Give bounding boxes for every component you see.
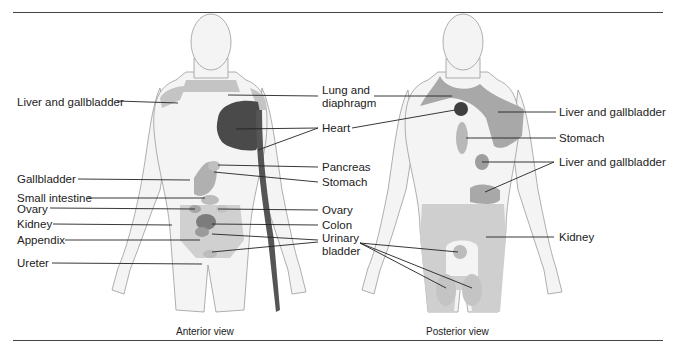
posterior-heart-region [454, 102, 468, 116]
label-kidney-anterior: Kidney [17, 218, 52, 231]
anterior-head [191, 14, 231, 70]
label-liver-gallbladder-posterior-1: Liver and gallbladder [559, 106, 666, 119]
caption-anterior-view: Anterior view [176, 326, 234, 338]
label-lung-diaphragm-2: diaphragm [322, 97, 376, 110]
label-stomach-posterior: Stomach [559, 132, 604, 145]
label-liver-gallbladder-anterior: Liver and gallbladder [17, 96, 124, 109]
label-urinary-bladder-1: Urinary [322, 232, 359, 245]
label-kidney-posterior: Kidney [559, 231, 594, 244]
label-ureter: Ureter [17, 257, 49, 270]
posterior-head [443, 14, 483, 70]
label-ovary-center: Ovary [322, 204, 353, 217]
label-appendix: Appendix [17, 234, 65, 247]
heart-region [217, 101, 261, 151]
label-colon: Colon [322, 219, 352, 232]
label-heart: Heart [322, 122, 350, 135]
label-pancreas: Pancreas [322, 161, 371, 174]
label-liver-gallbladder-posterior-2: Liver and gallbladder [559, 156, 666, 169]
caption-posterior-view: Posterior view [426, 326, 489, 338]
label-ovary-left: Ovary [17, 203, 48, 216]
label-lung-diaphragm-1: Lung and [322, 84, 370, 97]
label-urinary-bladder-2: bladder [322, 245, 360, 258]
label-stomach-anterior: Stomach [322, 176, 367, 189]
label-gallbladder: Gallbladder [17, 173, 76, 186]
